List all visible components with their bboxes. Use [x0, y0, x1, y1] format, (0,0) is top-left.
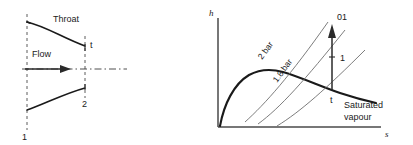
h-axis-label: h [209, 8, 214, 18]
nozzle-lower-wall [27, 88, 85, 110]
station-1-label: 1 [22, 132, 27, 142]
h-s-diagram-panel: h s 01 1 t 2 bar 1.8 bar [209, 8, 389, 139]
state-01-label: 01 [337, 12, 347, 22]
figure-container: Throat Flow t 1 2 h s [0, 0, 413, 145]
isobar-2-bar-label: 2 bar [256, 39, 276, 61]
nozzle-upper-wall [27, 22, 85, 46]
nozzle-upper-wall-inlet-cap [27, 22, 30, 23]
saturated-vapour-label-line2: vapour [344, 112, 372, 122]
state-1-label: 1 [340, 53, 345, 63]
throat-label: Throat [53, 14, 80, 24]
station-2-label: 2 [82, 99, 87, 109]
state-t-label: t [330, 95, 333, 105]
station-t-label: t [90, 40, 93, 50]
s-axis-label: s [385, 129, 389, 139]
saturated-vapour-label-line1: Saturated [344, 100, 383, 110]
nozzle-diagram-panel: Throat Flow t 1 2 [22, 14, 127, 142]
flow-arrow [25, 65, 71, 73]
flow-label: Flow [32, 49, 52, 59]
figure-svg: Throat Flow t 1 2 h s [0, 0, 413, 145]
